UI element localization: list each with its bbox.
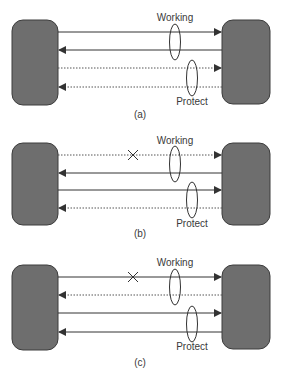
protect-label: Protect xyxy=(176,96,208,107)
protect-group-ellipse xyxy=(187,306,198,342)
working-label: Working xyxy=(157,12,194,23)
protect-label: Protect xyxy=(176,218,208,229)
left-node xyxy=(12,143,58,225)
panel-a: Working Protect (a) xyxy=(12,12,270,120)
panel-caption: (a) xyxy=(134,109,146,120)
working-label: Working xyxy=(157,135,194,146)
protect-group-ellipse xyxy=(187,60,198,96)
panel-caption: (c) xyxy=(134,357,146,368)
working-group-ellipse xyxy=(170,24,181,60)
right-node xyxy=(222,265,270,349)
protect-group-ellipse xyxy=(187,182,198,218)
left-node xyxy=(12,20,58,105)
left-node xyxy=(12,265,58,350)
panel-c: Working Protect (c) xyxy=(12,257,270,368)
panel-caption: (b) xyxy=(134,228,146,239)
working-group-ellipse xyxy=(170,146,181,182)
right-node xyxy=(222,143,270,225)
working-group-ellipse xyxy=(170,269,181,305)
working-label: Working xyxy=(157,257,194,268)
right-node xyxy=(222,20,270,104)
protection-switching-diagram: Working Protect (a) Working Protect (b) xyxy=(0,0,284,374)
panel-b: Working Protect (b) xyxy=(12,135,270,239)
protect-label: Protect xyxy=(176,341,208,352)
